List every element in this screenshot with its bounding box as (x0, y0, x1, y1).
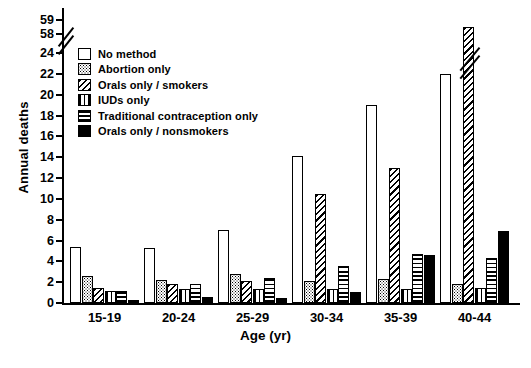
y-axis-tick-label: 24 (40, 47, 54, 60)
legend-item[interactable]: IUDs only (78, 93, 258, 109)
x-axis-tick-label: 40-44 (458, 310, 491, 325)
bar (179, 289, 190, 303)
y-axis-tick-label: 2 (47, 276, 54, 289)
y-axis-tick-label: 12 (40, 172, 54, 185)
bar (424, 255, 435, 303)
y-axis-tick-label: 58 (40, 28, 54, 41)
bar (475, 288, 486, 303)
y-axis-tick-label: 18 (40, 109, 54, 122)
y-axis-tick (56, 198, 62, 200)
bar (327, 289, 338, 303)
y-axis-tick (56, 156, 62, 158)
swatch-open-icon (78, 48, 91, 60)
y-axis-tick (56, 219, 62, 221)
bar (218, 230, 229, 303)
bar (93, 288, 104, 303)
bar (116, 291, 127, 304)
y-axis-tick (56, 94, 62, 96)
y-axis-tick-label: 16 (40, 130, 54, 143)
y-axis-line (62, 8, 64, 305)
bar (70, 247, 81, 303)
y-axis-tick-label: 22 (40, 68, 54, 81)
bar-group (292, 8, 361, 303)
bar (128, 300, 139, 303)
y-axis-tick (56, 33, 62, 35)
swatch-horizontal-icon (78, 110, 91, 122)
y-axis-tick-label: 20 (40, 88, 54, 101)
legend-item-label: No method (98, 48, 156, 60)
swatch-solid-icon (78, 125, 91, 137)
swatch-vertical-icon (78, 94, 91, 106)
legend-item[interactable]: Traditional contraception only (78, 108, 258, 124)
bar (241, 281, 252, 303)
y-axis-title: Annual deaths (16, 83, 31, 213)
bar (463, 27, 474, 303)
y-axis-tick-label: 8 (47, 213, 54, 226)
x-axis-tick-label: 30-34 (310, 310, 343, 325)
bar (167, 284, 178, 303)
swatch-diagonal-icon (78, 79, 91, 91)
chart-figure: Annual deaths 0246810121416182022245859 … (0, 0, 531, 368)
y-axis-tick (56, 115, 62, 117)
y-axis-tick (56, 281, 62, 283)
bar (486, 258, 497, 303)
bar-group (440, 8, 509, 303)
legend-item-label: Traditional contraception only (98, 110, 258, 122)
bar (366, 105, 377, 303)
bar (264, 278, 275, 303)
y-axis-tick-label: 10 (40, 193, 54, 206)
bar (276, 298, 287, 303)
bar (304, 281, 315, 303)
x-axis-tick-label: 25-29 (236, 310, 269, 325)
bar (144, 248, 155, 303)
y-axis-tick-label: 4 (47, 255, 54, 268)
legend-item-label: IUDs only (98, 94, 150, 106)
bar-group (366, 8, 435, 303)
bar (230, 274, 241, 303)
bar (452, 284, 463, 303)
y-axis-tick (56, 260, 62, 262)
x-axis-title: Age (yr) (0, 328, 531, 343)
bar (190, 284, 201, 303)
legend-item-label: Abortion only (98, 63, 171, 75)
bar (156, 280, 167, 303)
bar (498, 231, 509, 303)
figure-caption (30, 358, 523, 367)
legend-item[interactable]: Orals only / smokers (78, 77, 258, 93)
x-axis-tick-label: 35-39 (384, 310, 417, 325)
legend-item-label: Orals only / smokers (98, 79, 208, 91)
bar (412, 254, 423, 303)
y-axis-tick-label: 0 (47, 297, 54, 310)
bar (378, 279, 389, 303)
bar (440, 74, 451, 303)
y-axis-tick (56, 19, 62, 21)
bar (389, 168, 400, 303)
bar (292, 156, 303, 303)
y-axis-tick-label: 59 (40, 14, 54, 27)
legend-item[interactable]: Orals only / nonsmokers (78, 124, 258, 140)
y-axis-tick (56, 177, 62, 179)
bar (202, 297, 213, 303)
bar (338, 266, 349, 304)
legend-item-label: Orals only / nonsmokers (98, 125, 229, 137)
bar (105, 291, 116, 304)
legend-item[interactable]: Abortion only (78, 62, 258, 78)
y-axis-tick (56, 73, 62, 75)
legend-item[interactable]: No method (78, 46, 258, 62)
y-axis-tick (56, 240, 62, 242)
bar (350, 292, 361, 303)
x-axis-line (62, 303, 520, 305)
x-axis-tick-label: 20-24 (162, 310, 195, 325)
bar (401, 289, 412, 303)
bar (253, 289, 264, 303)
y-axis-tick (56, 135, 62, 137)
y-axis-tick-label: 14 (40, 151, 54, 164)
y-axis-tick (56, 302, 62, 304)
bar (315, 194, 326, 303)
bar (82, 276, 93, 303)
y-axis-tick-label: 6 (47, 234, 54, 247)
swatch-dotted-icon (78, 63, 91, 75)
x-axis-tick-label: 15-19 (88, 310, 121, 325)
chart-legend: No method Abortion only Orals only / smo… (78, 46, 258, 139)
